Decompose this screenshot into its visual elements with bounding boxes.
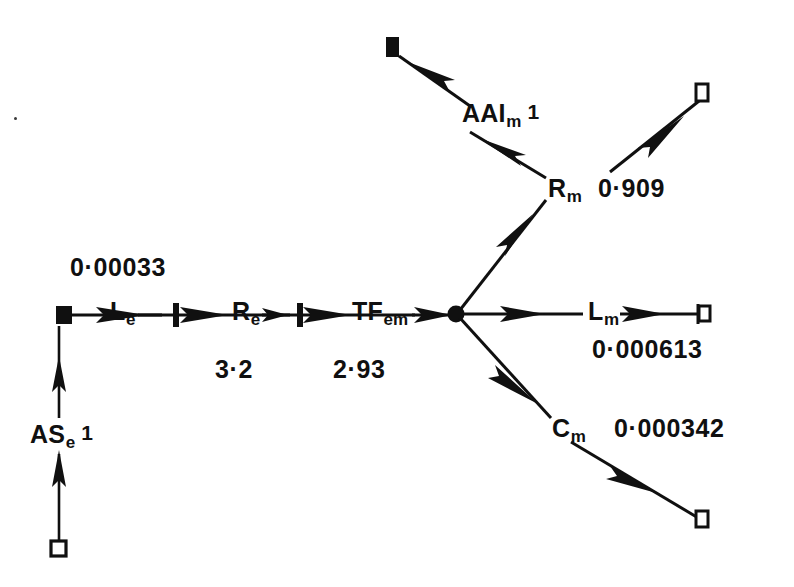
bond-arrowhead-aalm-to-sink	[408, 62, 455, 92]
value-label-rm: 0·909	[598, 176, 665, 201]
filled-square-terminal-left	[56, 306, 72, 324]
element-label-aalm-sup: 1	[522, 100, 539, 123]
element-label-ase-sub: e	[65, 433, 76, 452]
open-square-terminal-top-right	[696, 84, 708, 101]
bond-arrowhead-junction-to-rm	[496, 214, 533, 256]
element-label-aalm-text: AAI	[462, 99, 506, 127]
value-label-cm: 0·000342	[614, 416, 724, 441]
bond-line-junction-to-cm	[460, 318, 551, 418]
bond-arrowhead-rm-to-open-square	[638, 116, 684, 158]
element-label-rm-sub: m	[566, 187, 583, 206]
value-label-lm: 0·000613	[592, 337, 702, 362]
element-label-lm-text: L	[588, 297, 603, 325]
bond-line-aalm-to-sink	[399, 56, 470, 106]
element-label-ase-sup: 1	[76, 421, 93, 444]
filled-square-terminal-top	[386, 37, 399, 57]
bond-line-rm-to-open-square	[610, 101, 699, 172]
element-label-lm: Lm	[588, 299, 620, 328]
element-label-ase: ASe1	[30, 422, 93, 451]
bond-arrowhead-cm-to-open-square	[606, 466, 660, 494]
value-label-le: 0·00033	[70, 255, 166, 280]
bond-arrowhead-junction-to-cm	[488, 365, 538, 404]
element-label-tfem-sub: em	[383, 310, 409, 329]
scan-artifact-speck	[14, 117, 17, 120]
element-label-tfem-text: TF	[352, 297, 383, 325]
element-label-re-text: R	[232, 297, 250, 325]
element-label-le: Le	[110, 299, 137, 328]
element-label-lm-sub: m	[603, 310, 620, 329]
open-square-terminal-bottom-left	[51, 541, 66, 556]
element-label-cm: Cm	[552, 416, 587, 445]
element-label-ase-text: AS	[30, 420, 65, 448]
element-label-cm-sub: m	[570, 427, 587, 446]
element-label-re: Re	[232, 299, 261, 328]
open-square-terminal-bottom-right	[696, 511, 708, 527]
element-label-tfem: TFem	[352, 299, 409, 328]
element-label-rm-text: R	[548, 174, 566, 202]
open-square-terminal-right	[699, 306, 710, 321]
bond-line-junction-to-rm	[460, 200, 546, 310]
value-label-tfem: 2·93	[333, 357, 385, 382]
element-label-re-sub: e	[250, 310, 261, 329]
element-label-cm-text: C	[552, 414, 570, 442]
element-label-rm: Rm	[548, 176, 583, 205]
value-label-re: 3·2	[215, 357, 253, 382]
element-label-le-text: L	[110, 297, 125, 325]
bond-graph-figure: ASe1 Le Re TFem AAIm1 Rm Lm Cm 0·00033 3…	[0, 0, 794, 587]
bond-graph-drawing	[0, 0, 794, 587]
element-label-aalm-sub: m	[506, 112, 523, 131]
element-label-aalm: AAIm1	[462, 101, 539, 130]
element-label-le-sub: e	[125, 310, 136, 329]
